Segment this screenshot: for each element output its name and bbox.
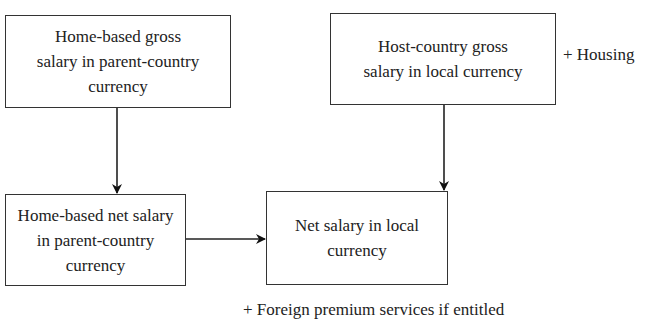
box-line: salary in local currency bbox=[363, 59, 522, 84]
housing-label: + Housing bbox=[563, 45, 634, 65]
box-home-based-gross-salary: Home-based gross salary in parent-countr… bbox=[5, 15, 231, 108]
box-line: currency bbox=[37, 74, 199, 99]
box-line: currency bbox=[295, 238, 419, 263]
box-line: Net salary in local bbox=[295, 213, 419, 238]
bottom-note: + Foreign premium services if entitled bbox=[243, 300, 504, 320]
box-home-based-net-salary: Home-based net salary in parent-country … bbox=[5, 194, 186, 286]
box-line: Home-based net salary bbox=[18, 203, 174, 228]
box-line: Host-country gross bbox=[363, 34, 522, 59]
box-net-salary-local-currency: Net salary in local currency bbox=[266, 191, 448, 285]
box-line: salary in parent-country bbox=[37, 49, 199, 74]
box-line: currency bbox=[18, 253, 174, 278]
box-line: in parent-country bbox=[18, 228, 174, 253]
box-line: Home-based gross bbox=[37, 24, 199, 49]
box-host-country-gross-salary: Host-country gross salary in local curre… bbox=[330, 13, 556, 105]
